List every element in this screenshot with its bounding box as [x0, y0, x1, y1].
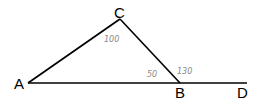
angle-abc-value: 50: [147, 70, 157, 79]
angle-c-value: 100: [104, 35, 119, 44]
label-d: D: [237, 84, 248, 101]
segment-ac: [28, 19, 120, 83]
label-a: A: [14, 75, 24, 92]
label-c: C: [114, 4, 125, 21]
label-b: B: [175, 84, 185, 101]
triangle-diagram: C A B D 100 50 130: [0, 0, 260, 103]
angle-cbd-value: 130: [177, 67, 192, 76]
